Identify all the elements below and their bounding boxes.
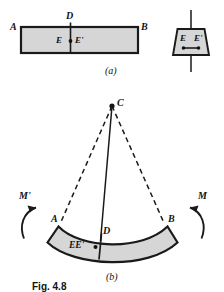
label-a-left: A (10, 22, 17, 32)
panel-b-group (22, 103, 204, 262)
label-b-bent: B (168, 214, 175, 224)
label-moment-m: M (198, 191, 207, 201)
panel-b-caption: (b) (106, 272, 118, 282)
label-d-top: D (66, 11, 73, 21)
point-ee-prime-dot-bent (94, 245, 98, 249)
cross-section-trapezoid (173, 29, 209, 55)
section-label-e-prime: E' (194, 34, 203, 43)
radius-line-cb (112, 106, 164, 223)
figure-caption: Fig. 4.8 (32, 282, 66, 292)
label-c-center: C (117, 98, 124, 108)
section-point-e-prime-dot (197, 46, 201, 50)
bent-member-body (48, 227, 178, 263)
label-e-prime: E' (75, 36, 84, 45)
section-label-e: E (180, 34, 186, 43)
panel-a-cross-section-group (173, 10, 209, 72)
label-d-bent: D (103, 226, 110, 236)
radius-line-cd (101, 106, 113, 241)
panel-a-caption: (a) (105, 66, 117, 76)
label-e: E (56, 36, 62, 45)
moment-m-arrow (190, 206, 204, 239)
point-e-dot (69, 39, 73, 43)
moment-m-prime-arrow (22, 206, 36, 239)
label-moment-m-prime: M' (19, 191, 31, 201)
label-b-right: B (141, 22, 148, 32)
label-a-bent: A (51, 214, 58, 224)
section-point-e-dot (182, 46, 186, 50)
label-ee-prime-bent: EE' (69, 241, 84, 251)
